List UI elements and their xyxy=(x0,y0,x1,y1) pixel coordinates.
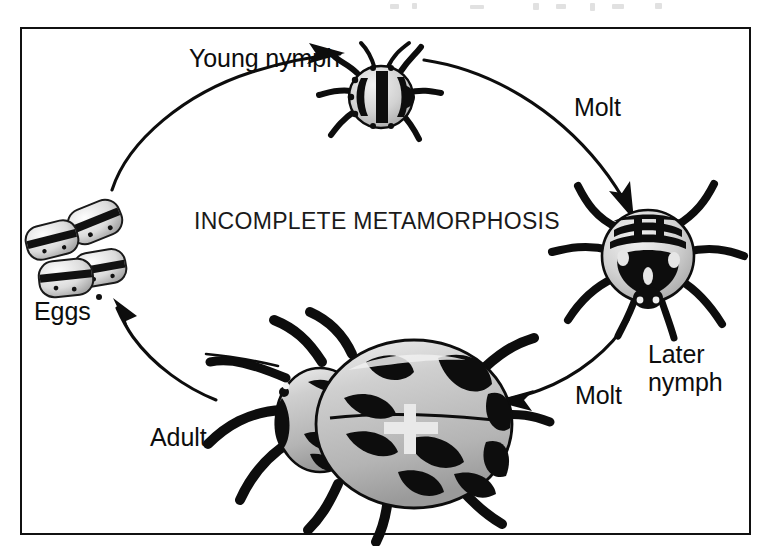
stage-label-eggs: Eggs xyxy=(34,297,91,325)
arrow-young-nymph-to-later-nymph xyxy=(424,60,634,220)
stage-label-young-nymph: Young nymph xyxy=(189,44,340,72)
eggs-illustration xyxy=(23,195,129,300)
stage-label-later-nymph-line1: Later xyxy=(648,340,704,368)
transition-label-molt-lower: Molt xyxy=(575,381,622,409)
stage-label-later-nymph-line2: nymph xyxy=(648,368,723,396)
arrow-adult-to-eggs xyxy=(113,298,216,400)
stage-label-adult: Adult xyxy=(150,423,206,451)
diagram-artwork xyxy=(0,0,760,546)
metamorphosis-figure: Young nymph Molt Later nymph Molt Adult … xyxy=(0,0,760,546)
stage-label-later-nymph: Later nymph xyxy=(648,340,744,396)
adult-beetle-illustration xyxy=(206,312,550,542)
figure-title: INCOMPLETE METAMORPHOSIS xyxy=(194,209,560,235)
later-nymph-illustration xyxy=(552,184,744,338)
transition-label-molt-upper: Molt xyxy=(574,93,621,121)
